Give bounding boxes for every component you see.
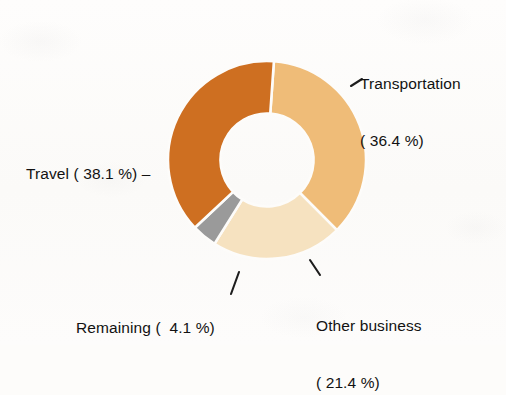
slice-label-other-business: Other business ( 21.4 %) — [316, 278, 422, 395]
slice-label-other-business-name: Other business — [316, 316, 422, 335]
slice-label-transportation-percent: ( 36.4 %) — [360, 131, 461, 150]
donut-slice-travel — [168, 61, 274, 228]
leader-line-other-business — [310, 260, 320, 275]
slice-label-transportation-name: Transportation — [360, 74, 461, 93]
slice-label-travel-text: Travel ( 38.1 %) – — [26, 164, 150, 183]
donut-slice-group — [168, 61, 366, 259]
slice-label-remaining: Remaining ( 4.1 %) — [76, 280, 215, 356]
leader-line-remaining — [231, 272, 239, 294]
slice-label-travel: Travel ( 38.1 %) – — [26, 126, 150, 202]
slice-label-transportation: Transportation ( 36.4 %) — [360, 36, 461, 169]
slice-label-other-business-percent: ( 21.4 %) — [316, 373, 422, 392]
slice-label-remaining-text: Remaining ( 4.1 %) — [76, 318, 215, 337]
